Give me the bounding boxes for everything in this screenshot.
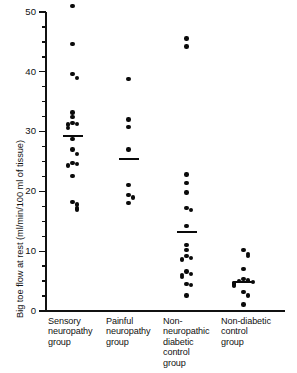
data-point xyxy=(184,190,188,194)
data-point xyxy=(131,195,135,199)
data-point xyxy=(184,172,188,176)
data-point xyxy=(126,183,130,187)
group-label-2: Painful neuropathy group xyxy=(106,316,151,347)
mean-line xyxy=(177,231,197,233)
group-label-1: Sensory neuropathy group xyxy=(48,316,93,347)
mean-line xyxy=(63,135,83,137)
y-tick-major xyxy=(39,131,46,132)
y-tick-minor xyxy=(42,206,46,207)
y-tick-minor xyxy=(42,101,46,102)
data-point xyxy=(189,283,193,287)
y-tick-minor xyxy=(42,146,46,147)
y-tick-minor xyxy=(42,41,46,42)
data-point xyxy=(66,126,70,130)
mean-line xyxy=(119,158,139,160)
data-point xyxy=(184,224,188,228)
data-point xyxy=(189,256,193,260)
y-tick-minor xyxy=(42,26,46,27)
data-point xyxy=(126,147,130,151)
data-point xyxy=(184,243,188,247)
y-tick-label: 50 xyxy=(10,7,36,17)
y-tick-label: 40 xyxy=(10,67,36,77)
data-point xyxy=(70,4,74,8)
y-tick-label: 30 xyxy=(10,126,36,136)
data-point xyxy=(126,117,130,121)
data-point xyxy=(70,147,74,151)
data-point xyxy=(126,77,130,81)
y-tick-label: 10 xyxy=(10,246,36,256)
y-tick-minor xyxy=(42,56,46,57)
data-point xyxy=(75,152,79,156)
data-point xyxy=(241,290,245,294)
data-point xyxy=(70,137,74,141)
data-point xyxy=(75,162,79,166)
data-point xyxy=(70,72,74,76)
y-tick-major xyxy=(39,310,46,311)
data-point xyxy=(180,257,184,261)
data-point xyxy=(184,181,188,185)
group-label-4: Non-diabetic control group xyxy=(221,316,271,347)
data-point xyxy=(189,208,193,212)
y-tick-major xyxy=(39,11,46,12)
data-point xyxy=(184,293,188,297)
data-point xyxy=(189,272,193,276)
data-point xyxy=(184,248,188,252)
y-tick-major xyxy=(39,251,46,252)
data-point xyxy=(126,125,130,129)
data-point xyxy=(70,110,74,114)
data-point xyxy=(75,122,79,126)
y-tick-major xyxy=(39,191,46,192)
data-point xyxy=(70,115,74,119)
data-point xyxy=(246,254,250,258)
data-point xyxy=(75,207,79,211)
y-tick-minor xyxy=(42,221,46,222)
y-tick-minor xyxy=(42,265,46,266)
y-tick-label: 20 xyxy=(10,186,36,196)
data-point xyxy=(180,275,184,279)
data-point xyxy=(126,201,130,205)
y-tick-label: 0 xyxy=(10,306,36,316)
data-point xyxy=(241,302,245,306)
group-label-3: Non- neuropathic diabetic control group xyxy=(163,316,209,368)
data-point xyxy=(184,44,188,48)
x-axis-line xyxy=(45,310,285,312)
y-tick-minor xyxy=(42,86,46,87)
y-tick-minor xyxy=(42,236,46,237)
chart-figure: Big toe flow at rest (ml/min/100 ml of t… xyxy=(0,0,297,373)
data-point xyxy=(75,76,79,80)
data-point xyxy=(184,36,188,40)
data-point xyxy=(232,284,236,288)
y-tick-minor xyxy=(42,176,46,177)
data-point xyxy=(66,163,70,167)
data-point xyxy=(241,267,245,271)
y-tick-minor xyxy=(42,116,46,117)
y-tick-minor xyxy=(42,295,46,296)
y-tick-minor xyxy=(42,161,46,162)
data-point xyxy=(246,293,250,297)
y-tick-minor xyxy=(42,280,46,281)
y-tick-major xyxy=(39,71,46,72)
data-point xyxy=(241,248,245,252)
mean-line xyxy=(234,281,254,283)
data-point xyxy=(70,42,74,46)
data-point xyxy=(70,174,74,178)
